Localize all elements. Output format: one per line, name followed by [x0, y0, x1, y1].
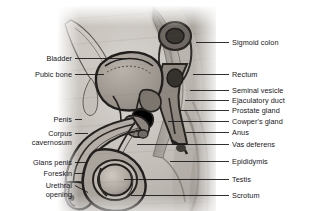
label-bladder: Bladder	[46, 54, 72, 63]
label-anus: Anus	[232, 128, 249, 137]
label-cowpers-gland: Cowper's gland	[232, 117, 283, 126]
label-prostate-gland-line-0: Prostate gland	[232, 106, 280, 115]
label-sigmoid-colon: Sigmoid colon	[232, 38, 278, 47]
label-pubic-bone: Pubic bone	[35, 70, 72, 79]
label-seminal-vesicle-line-0: Seminal vesicle	[232, 86, 283, 95]
label-anus-line-0: Anus	[232, 128, 249, 137]
label-glans-penis-line-0: Glans penis	[33, 158, 72, 167]
label-pubic-bone-line-0: Pubic bone	[35, 70, 72, 79]
label-corpus-cavernosum-line-1: cavernosum	[32, 138, 72, 147]
label-rectum: Rectum	[232, 70, 257, 79]
label-urethral-opening-line-0: Urethral	[46, 181, 72, 190]
label-corpus-cavernosum: Corpuscavernosum	[32, 129, 72, 148]
leader-line-urethral-opening	[75, 186, 88, 193]
label-sigmoid-colon-line-0: Sigmoid colon	[232, 38, 278, 47]
label-penis-line-0: Penis	[53, 115, 72, 124]
label-epididymis: Epididymis	[232, 157, 268, 166]
label-seminal-vesicle: Seminal vesicle	[232, 86, 283, 95]
label-penis: Penis	[53, 115, 72, 124]
label-cowpers-gland-line-0: Cowper's gland	[232, 117, 283, 126]
label-urethral-opening-line-1: opening	[46, 190, 72, 199]
label-bladder-line-0: Bladder	[46, 54, 72, 63]
label-prostate-gland: Prostate gland	[232, 106, 280, 115]
label-epididymis-line-0: Epididymis	[232, 157, 268, 166]
label-scrotum: Scrotum	[232, 191, 260, 200]
label-vas-deferens-line-0: Vas deferens	[232, 140, 275, 149]
label-vas-deferens: Vas deferens	[232, 140, 275, 149]
label-urethral-opening: Urethralopening	[46, 181, 72, 200]
label-foreskin-line-0: Foreskin	[44, 169, 72, 178]
label-foreskin: Foreskin	[44, 169, 72, 178]
label-rectum-line-0: Rectum	[232, 70, 257, 79]
label-glans-penis: Glans penis	[33, 158, 72, 167]
label-corpus-cavernosum-line-0: Corpus	[32, 129, 72, 138]
label-testis-line-0: Testis	[232, 175, 251, 184]
anatomy-figure: BladderPubic bonePenisCorpuscavernosumGl…	[0, 0, 309, 211]
label-ejaculatory-duct: Ejaculatory duct	[232, 96, 285, 105]
label-ejaculatory-duct-line-0: Ejaculatory duct	[232, 96, 285, 105]
label-testis: Testis	[232, 175, 251, 184]
label-scrotum-line-0: Scrotum	[232, 191, 260, 200]
